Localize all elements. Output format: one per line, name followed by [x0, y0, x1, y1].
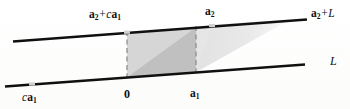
label-L: L: [330, 55, 337, 67]
label-a2: a2: [205, 6, 215, 19]
label-c-a1: ca1: [22, 92, 37, 105]
marker-a2-plus-ca1: [124, 31, 130, 34]
label-a1-subscript: 1: [196, 92, 200, 101]
marker-a2: [209, 24, 215, 27]
label-a2-plus-c-a1: a2+ca1: [89, 9, 121, 22]
label-a2-subscript: 2: [211, 10, 215, 19]
marker-ca1: [29, 82, 35, 85]
label-a2-plus-L-line: L: [328, 7, 335, 19]
label-c-a1-subscript: 1: [33, 96, 37, 105]
label-origin: 0: [124, 88, 130, 100]
label-a2-plus-L: a2+L: [311, 8, 335, 21]
figure-canvas: [0, 0, 350, 109]
label-a2-plus-c-a1-subscript2: 1: [117, 13, 121, 22]
label-a1: a1: [190, 88, 200, 101]
geometry-figure: a2+ca1 a2 a2+L L ca1 0 a1: [0, 0, 350, 109]
